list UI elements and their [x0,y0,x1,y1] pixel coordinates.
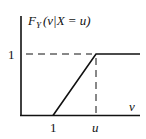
x-tick-u: u [92,120,99,135]
chart-title: FY(v|X = u) [27,13,91,30]
y-tick-1: 1 [8,47,15,62]
x-axis-label: v [129,99,135,114]
x-tick-1: 1 [50,120,57,135]
cdf-chart: FY(v|X = u) 1 1 u v [0,0,146,139]
